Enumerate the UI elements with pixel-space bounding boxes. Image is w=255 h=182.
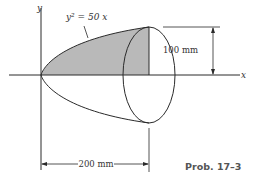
shaded-area xyxy=(41,27,149,75)
parabola-lower xyxy=(41,75,149,123)
arrow-up xyxy=(211,27,215,33)
arrow-right xyxy=(143,162,149,166)
paraboloid-diagram: y x y² = 50 x 100 mm 200 mm xyxy=(0,0,255,182)
equation-leader xyxy=(84,26,88,38)
equation-label: y² = 50 x xyxy=(65,12,107,22)
x-axis-label: x xyxy=(241,70,246,80)
arrow-down xyxy=(211,69,215,75)
arrow-left xyxy=(41,162,47,166)
height-label: 100 mm xyxy=(163,45,198,55)
problem-caption: Prob. 17–3 xyxy=(185,161,241,172)
length-label: 200 mm xyxy=(78,159,113,169)
y-axis-label: y xyxy=(36,3,43,13)
